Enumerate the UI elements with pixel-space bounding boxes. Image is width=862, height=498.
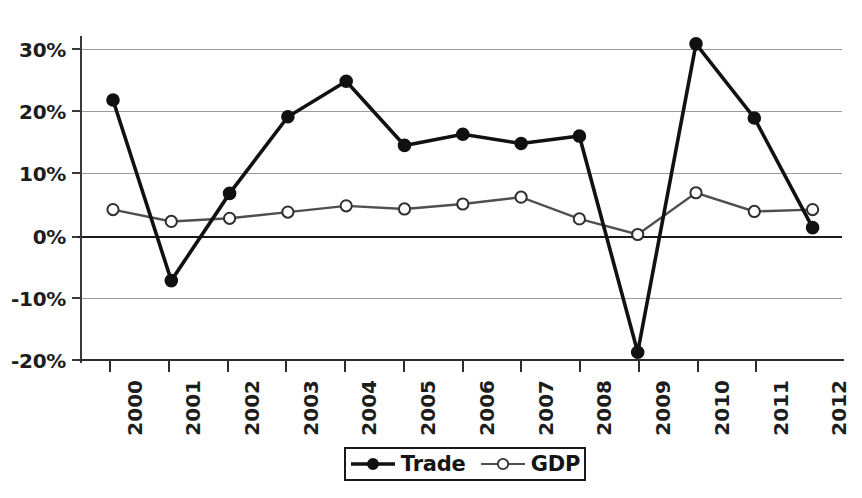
filled-circle-icon (350, 455, 396, 473)
legend-label-gdp: GDP (531, 452, 580, 476)
open-circle-icon (480, 455, 526, 473)
data-point-gdp-2009 (632, 229, 643, 240)
data-point-trade-2001 (165, 275, 177, 287)
data-point-gdp-2004 (341, 200, 352, 211)
data-point-gdp-2010 (690, 187, 701, 198)
data-point-trade-2005 (399, 139, 411, 151)
data-point-gdp-2000 (107, 204, 118, 215)
data-point-gdp-2012 (807, 204, 818, 215)
data-point-trade-2012 (807, 222, 819, 234)
data-point-gdp-2007 (516, 192, 527, 203)
line-chart: 30% 20% 10% 0% -10% -20% 2000 2001 2002 … (0, 0, 862, 498)
data-point-gdp-2011 (749, 206, 760, 217)
data-point-trade-2007 (515, 138, 527, 150)
data-point-trade-2003 (282, 111, 294, 123)
legend-entry-gdp[interactable]: GDP (480, 452, 580, 476)
data-point-trade-2006 (457, 128, 469, 140)
data-point-trade-2004 (340, 75, 352, 87)
data-point-gdp-2002 (224, 213, 235, 224)
data-point-trade-2010 (690, 38, 702, 50)
data-point-gdp-2008 (574, 213, 585, 224)
data-point-trade-2000 (107, 94, 119, 106)
series-layer (0, 0, 862, 498)
data-point-gdp-2005 (399, 203, 410, 214)
data-point-gdp-2003 (282, 206, 293, 217)
chart-legend: Trade GDP (344, 447, 586, 481)
legend-label-trade: Trade (401, 452, 466, 476)
data-point-trade-2008 (573, 130, 585, 142)
data-point-gdp-2001 (166, 216, 177, 227)
data-point-trade-2002 (224, 187, 236, 199)
data-point-trade-2009 (632, 346, 644, 358)
data-point-trade-2011 (748, 112, 760, 124)
legend-entry-trade[interactable]: Trade (350, 452, 466, 476)
data-point-gdp-2006 (457, 198, 468, 209)
